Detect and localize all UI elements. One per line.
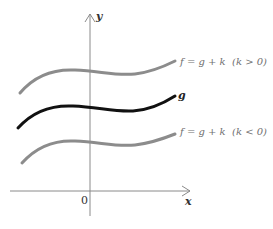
curve-lower xyxy=(22,134,175,163)
curve-upper xyxy=(20,61,175,93)
y-axis-label: y xyxy=(95,10,104,23)
x-axis-label: x xyxy=(184,195,192,208)
translation-diagram: f = g + k (k > 0) g f = g + k (k < 0) y … xyxy=(0,0,273,229)
label-g: g xyxy=(178,89,186,102)
label-lower: f = g + k (k < 0) xyxy=(179,126,267,137)
curve-g xyxy=(18,96,175,128)
label-upper: f = g + k (k > 0) xyxy=(179,56,267,67)
y-axis xyxy=(85,14,95,216)
origin-label: 0 xyxy=(81,194,88,207)
x-axis xyxy=(10,186,190,196)
